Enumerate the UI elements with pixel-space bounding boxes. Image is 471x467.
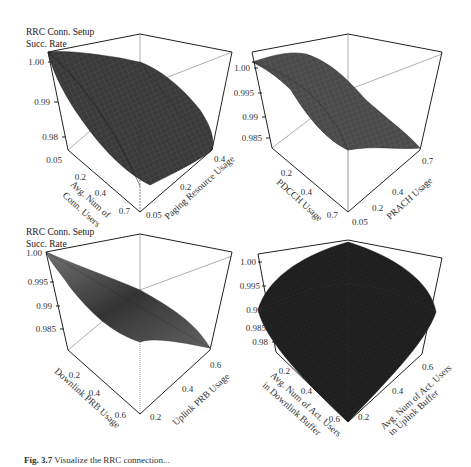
- svg-text:0.2: 0.2: [372, 203, 383, 213]
- z-axis-ticks: 1.00 0.995 0.99 0.985: [234, 63, 270, 143]
- caption-text: Visualize the RRC connection...: [54, 455, 169, 465]
- svg-text:0.98: 0.98: [252, 337, 268, 347]
- svg-text:0.7: 0.7: [119, 206, 131, 216]
- svg-text:0.4: 0.4: [95, 188, 107, 198]
- y-axis-label: Uplink PRB Usage: [171, 371, 232, 427]
- svg-text:0.99: 0.99: [34, 97, 50, 107]
- svg-text:0.05: 0.05: [146, 210, 162, 220]
- chart-panel-top-right: 1.00 0.995 0.99 0.985 0.2 0.4 0.7 PDCCH …: [236, 0, 471, 222]
- svg-text:0.7: 0.7: [422, 156, 434, 166]
- svg-text:1.00: 1.00: [240, 257, 256, 267]
- caption-label: Fig. 3.7: [24, 455, 52, 465]
- svg-text:0.98: 0.98: [42, 132, 58, 142]
- x-axis-ticks: 0.05 0.2 0.4 0.7: [46, 155, 130, 216]
- svg-text:0.6: 0.6: [210, 360, 222, 370]
- surface-plot: 1.00 0.995 0.99 0.985 0.98 0.2 0.4 0.6 A…: [236, 222, 471, 444]
- svg-text:0.995: 0.995: [234, 88, 255, 98]
- svg-text:0.99: 0.99: [36, 301, 52, 311]
- svg-text:0.99: 0.99: [246, 305, 262, 315]
- svg-text:0.2: 0.2: [281, 168, 292, 178]
- svg-text:0.7: 0.7: [327, 210, 339, 220]
- svg-text:1.00: 1.00: [28, 57, 44, 67]
- svg-text:0.995: 0.995: [28, 277, 49, 287]
- svg-text:0.2: 0.2: [150, 412, 161, 422]
- chart-panel-bottom-right: 1.00 0.995 0.99 0.985 0.98 0.2 0.4 0.6 A…: [236, 222, 471, 444]
- svg-text:0.4: 0.4: [392, 187, 404, 197]
- surface-plot: 1.00 0.995 0.99 0.985 0.2 0.4 0.6 Downli…: [0, 222, 235, 444]
- y-axis-label: PRACH Usage: [385, 175, 435, 221]
- svg-text:0.99: 0.99: [242, 112, 258, 122]
- svg-text:0.985: 0.985: [242, 133, 263, 143]
- svg-text:1.00: 1.00: [234, 63, 250, 73]
- svg-text:0.985: 0.985: [36, 324, 57, 334]
- x-axis-label: Downlink PRB Usage: [53, 366, 122, 430]
- svg-text:0.6: 0.6: [422, 362, 434, 372]
- svg-text:1.00: 1.00: [26, 248, 42, 258]
- svg-text:0.4: 0.4: [392, 386, 404, 396]
- svg-text:0.985: 0.985: [246, 323, 267, 333]
- surface: [48, 52, 213, 185]
- svg-text:0.05: 0.05: [46, 155, 62, 165]
- chart-panel-bottom-left: RRC Conn. Setup Succ. Rate 1.00 0.995 0.…: [0, 222, 235, 444]
- x-axis-label: PDCCH Usage: [275, 177, 325, 223]
- surface-plot: 1.00 0.99 0.98 0.05 0.2 0.4 0.7 Avg. Num…: [0, 0, 235, 222]
- figure-caption: Fig. 3.7 Visualize the RRC connection...: [24, 455, 170, 465]
- svg-text:0.2: 0.2: [358, 412, 369, 422]
- surface-plot: 1.00 0.995 0.99 0.985 0.2 0.4 0.7 PDCCH …: [236, 0, 471, 222]
- svg-text:0.995: 0.995: [240, 281, 261, 291]
- chart-panel-top-left: RRC Conn. Setup Succ. Rate 1.00 0.99: [0, 0, 235, 222]
- svg-text:0.4: 0.4: [182, 384, 194, 394]
- surface: [252, 53, 420, 150]
